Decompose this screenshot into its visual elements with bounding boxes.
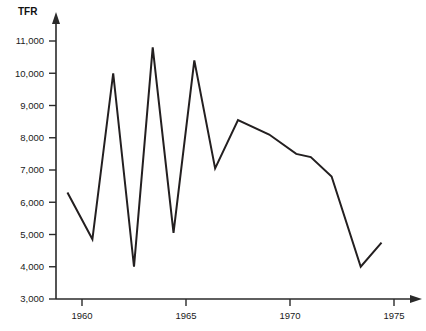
- y-tick-label: 8,000: [20, 132, 44, 143]
- y-axis-ticks: 3,0004,0005,0006,0007,0008,0009,00010,00…: [15, 35, 56, 304]
- tfr-line-chart: 3,0004,0005,0006,0007,0008,0009,00010,00…: [0, 0, 426, 331]
- x-axis-ticks: 1960196519701975: [71, 299, 404, 321]
- x-tick-label: 1960: [71, 310, 92, 321]
- y-tick-label: 4,000: [20, 261, 44, 272]
- x-tick-label: 1965: [175, 310, 196, 321]
- x-axis-arrowhead: [410, 295, 422, 303]
- y-tick-label: 6,000: [20, 197, 44, 208]
- y-tick-label: 10,000: [15, 68, 44, 79]
- tfr-data-line: [67, 47, 381, 266]
- y-tick-label: 5,000: [20, 229, 44, 240]
- x-tick-label: 1970: [279, 310, 300, 321]
- y-tick-label: 11,000: [16, 35, 44, 46]
- y-tick-label: 9,000: [20, 100, 44, 111]
- y-tick-label: 7,000: [20, 164, 44, 175]
- y-axis-arrowhead: [52, 12, 60, 24]
- chart-canvas: 3,0004,0005,0006,0007,0008,0009,00010,00…: [0, 0, 426, 331]
- y-tick-label: 3,000: [20, 293, 44, 304]
- y-axis-title: TFR: [18, 6, 38, 17]
- x-tick-label: 1975: [383, 310, 404, 321]
